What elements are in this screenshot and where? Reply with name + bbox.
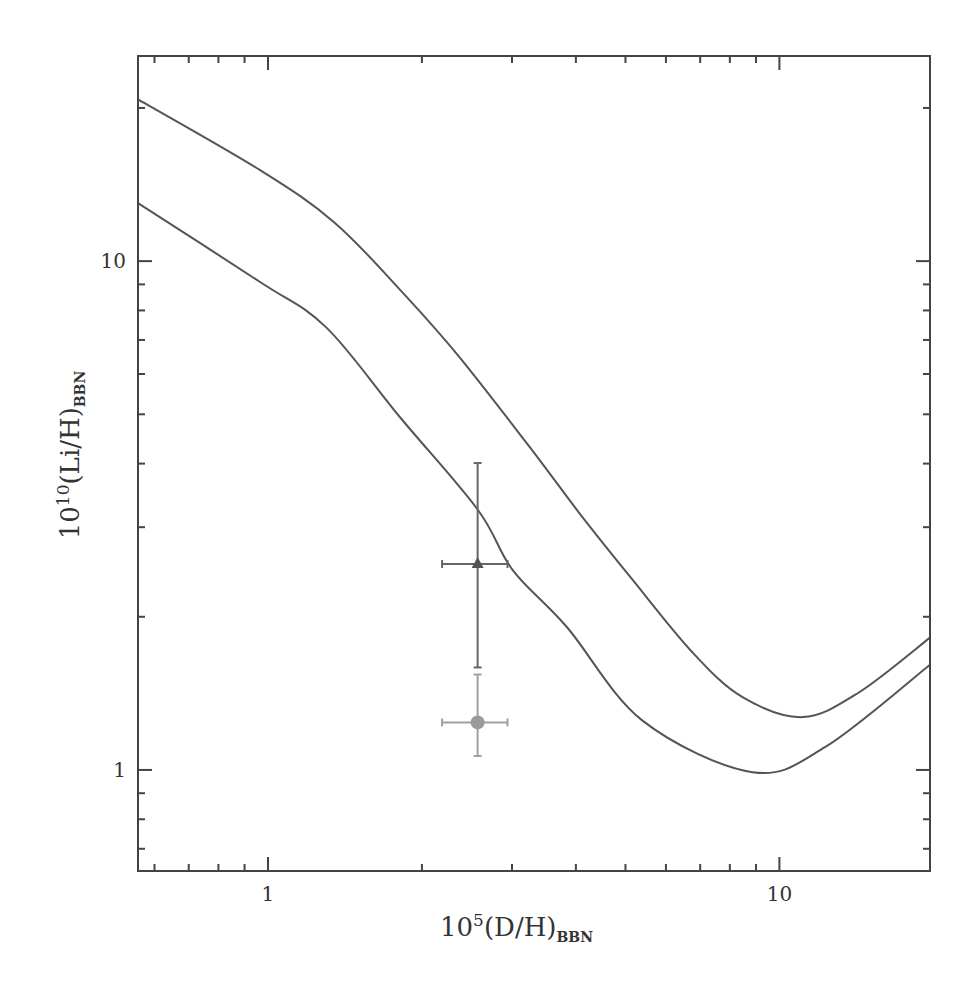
lower-curve	[138, 203, 930, 773]
upper-curve	[138, 99, 930, 717]
x-axis-label: 105(D/H)BBN	[440, 912, 593, 942]
y-axis-label: 1010(Li/H)BBN	[55, 371, 85, 540]
x-tick-label: 1	[262, 882, 275, 906]
y-tick-label: 10	[101, 249, 126, 273]
circle-marker-icon	[471, 715, 485, 729]
tick-labels: 110110	[101, 249, 793, 906]
curves	[138, 99, 930, 773]
triangle-data-point	[442, 463, 507, 667]
y-tick-label: 1	[113, 758, 126, 782]
x-tick-label: 10	[767, 882, 792, 906]
axis-ticks	[138, 56, 930, 871]
triangle-marker-icon	[472, 557, 484, 568]
chart-plot: 110110	[0, 0, 977, 992]
plot-frame	[138, 56, 930, 871]
circle-data-point	[442, 675, 507, 756]
